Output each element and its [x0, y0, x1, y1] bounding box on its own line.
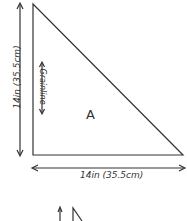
- piece-label: A: [86, 107, 95, 122]
- height-label: 14in (35.5cm): [12, 42, 22, 112]
- mini-triangle-icon: [73, 208, 82, 221]
- grainline-label: Grainline: [38, 67, 47, 107]
- pattern-piece-triangle: [33, 4, 183, 155]
- width-label: 14in (35.5cm): [80, 170, 143, 180]
